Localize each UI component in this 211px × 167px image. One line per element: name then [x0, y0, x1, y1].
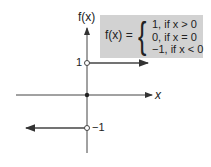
- closed-point-origin: [85, 93, 89, 97]
- definition-rows: 1, if x > 0 0, if x = 0 −1, if x < 0: [152, 18, 203, 56]
- tick-label-negative: −1: [92, 121, 105, 133]
- open-point-upper: [85, 61, 90, 66]
- tick-label-positive: 1: [76, 56, 82, 68]
- x-axis-label: x: [155, 88, 161, 102]
- definition-row: −1, if x < 0: [152, 43, 203, 56]
- definition-row: 1, if x > 0: [152, 18, 203, 31]
- function-label: f(x) =: [105, 28, 133, 42]
- y-axis-label: f(x): [78, 10, 95, 24]
- open-point-lower: [85, 126, 90, 131]
- definition-row: 0, if x = 0: [152, 31, 203, 44]
- brace-icon: {: [138, 17, 146, 55]
- definition-box: f(x) = { 1, if x > 0 0, if x = 0 −1, if …: [100, 15, 203, 58]
